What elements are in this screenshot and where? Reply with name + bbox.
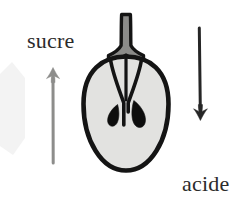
apple-cross-section — [84, 15, 169, 171]
acide-label: acide — [182, 173, 229, 195]
acide-arrow — [194, 28, 208, 121]
figure-canvas: sucre acide — [0, 0, 244, 203]
sucre-arrow — [47, 68, 60, 164]
apple-stem — [109, 15, 144, 61]
background-polygon — [0, 62, 25, 155]
sucre-label: sucre — [27, 30, 74, 52]
